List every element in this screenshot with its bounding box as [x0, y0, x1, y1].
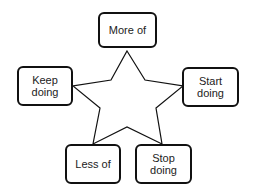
box-keep-doing-line2: doing	[32, 86, 59, 98]
box-more-of-label: More of	[109, 24, 146, 36]
box-keep-doing-line1: Keep	[32, 74, 59, 86]
box-stop-doing-line2: doing	[150, 164, 177, 176]
box-less-of-label: Less of	[75, 158, 110, 170]
box-start-doing: Start doing	[182, 67, 239, 107]
box-keep-doing: Keep doing	[17, 66, 73, 106]
box-start-doing-line1: Start	[197, 75, 224, 87]
box-start-doing-line2: doing	[197, 87, 224, 99]
box-stop-doing-line1: Stop	[150, 152, 177, 164]
box-stop-doing: Stop doing	[135, 144, 192, 184]
box-more-of: More of	[98, 12, 157, 48]
box-less-of: Less of	[65, 144, 121, 184]
